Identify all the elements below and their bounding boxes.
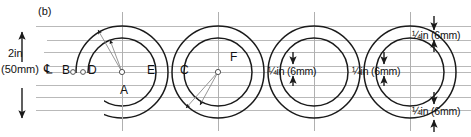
- centerline-symbol: ℄: [44, 62, 52, 75]
- dimension-label-mid-right: ¼in (6mm): [352, 66, 400, 77]
- figure-panel-b: (b) 2in (50mm) ℄ B D A E C F ¼in (6mm) ¼…: [0, 0, 471, 137]
- height-dimension-metric: (50mm): [1, 64, 39, 75]
- point-label-B: B: [62, 64, 70, 76]
- panel-label: (b): [38, 6, 51, 17]
- dimension-label-top-right: ¼in (6mm): [412, 30, 460, 41]
- mask-group-1: [0, 73, 104, 137]
- dimension-label-bottom-right: ¼in (6mm): [412, 106, 460, 117]
- center-point-F: [215, 69, 220, 74]
- point-marker-D: [81, 70, 86, 75]
- point-label-D: D: [88, 64, 97, 76]
- point-marker-B: [71, 70, 76, 75]
- point-label-F: F: [230, 51, 237, 63]
- dimension-label-mid-left: ¼in (6mm): [268, 66, 316, 77]
- point-label-E: E: [147, 64, 155, 76]
- center-point-A: [119, 69, 124, 74]
- point-label-A: A: [120, 84, 128, 96]
- point-label-C: C: [180, 64, 189, 76]
- height-dimension-value: 2in: [8, 48, 23, 59]
